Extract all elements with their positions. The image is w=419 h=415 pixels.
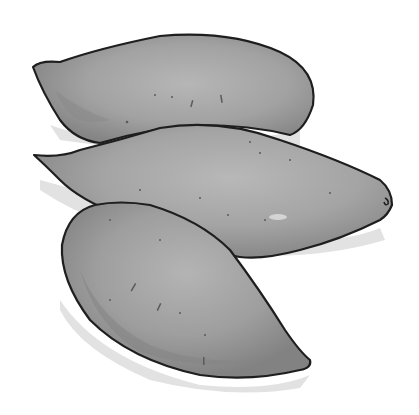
sweet-potatoes-illustration: [0, 0, 419, 415]
illustration-canvas: [0, 0, 419, 415]
